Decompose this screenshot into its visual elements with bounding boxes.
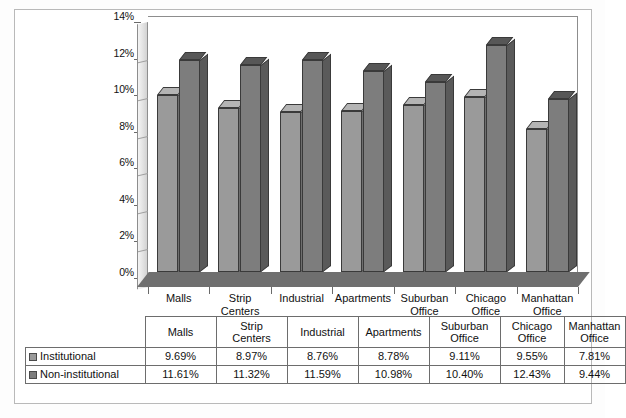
table-column-header: SuburbanOffice	[429, 317, 500, 348]
bar-front-face	[464, 97, 485, 272]
bar-institutional	[526, 129, 547, 272]
table-column-header: Malls	[145, 317, 216, 348]
bar-front-face	[425, 82, 446, 272]
data-table-wrap: MallsStripCentersIndustrialApartmentsSub…	[25, 316, 569, 384]
bar-institutional	[218, 108, 239, 272]
table-cell: 11.32%	[216, 366, 287, 384]
table-column-header: ManhattanOffice	[564, 317, 625, 348]
bar-side-face	[261, 59, 269, 272]
bar-chart: 14%12%10%8%6%4%2%0% MallsStripCentersInd…	[0, 0, 605, 310]
x-axis-label-line: Manhattan	[517, 292, 578, 305]
table-column-header: ChicagoOffice	[500, 317, 564, 348]
x-axis-category-label: Malls	[148, 292, 209, 305]
table-header-row: MallsStripCentersIndustrialApartmentsSub…	[26, 317, 626, 348]
x-axis-label-line: Malls	[148, 292, 209, 305]
table-cell: 8.78%	[358, 348, 429, 366]
bar-group	[148, 16, 209, 272]
bar-front-face	[403, 105, 424, 272]
table-cell: 9.11%	[429, 348, 500, 366]
y-axis-labels: 14%12%10%8%6%4%2%0%	[94, 0, 134, 310]
y-axis-tick-label: 10%	[94, 84, 134, 94]
table-row: Non-institutional11.61%11.32%11.59%10.98…	[26, 366, 626, 384]
table-cell: 12.43%	[500, 366, 564, 384]
table-corner-cell	[26, 317, 146, 348]
table-header-line: Industrial	[291, 326, 355, 339]
bar-group	[394, 16, 455, 272]
table-cell: 9.44%	[564, 366, 625, 384]
y-axis-tick-label: 8%	[94, 121, 134, 131]
legend-label: Non-institutional	[40, 368, 119, 380]
x-axis-category-label: SuburbanOffice	[394, 292, 455, 317]
y-axis-tick-label: 0%	[94, 267, 134, 277]
table-cell: 7.81%	[564, 348, 625, 366]
table-header-line: Office	[504, 332, 561, 345]
table-header-line: Centers	[220, 332, 284, 345]
bar-institutional	[157, 95, 178, 272]
table-row: Institutional9.69%8.97%8.76%8.78%9.11%9.…	[26, 348, 626, 366]
bar-non-institutional	[363, 71, 384, 272]
table-cell: 9.69%	[145, 348, 216, 366]
bar-side-face	[323, 54, 331, 272]
bar-front-face	[218, 108, 239, 272]
x-axis-label-line: Industrial	[271, 292, 332, 305]
x-axis-label-line: Suburban	[394, 292, 455, 305]
bar-side-face	[384, 65, 392, 272]
bar-non-institutional	[302, 60, 323, 272]
bar-side-face	[200, 53, 208, 272]
x-axis-tick-mark	[578, 287, 579, 294]
bar-institutional	[341, 111, 362, 272]
bar-group	[271, 16, 332, 272]
bar-group	[455, 16, 516, 272]
table-cell: 10.40%	[429, 366, 500, 384]
bar-front-face	[302, 60, 323, 272]
legend-row-header: Institutional	[26, 348, 146, 366]
table-cell: 9.55%	[500, 348, 564, 366]
bar-institutional	[464, 97, 485, 272]
bar-non-institutional	[179, 60, 200, 272]
table-column-header: StripCenters	[216, 317, 287, 348]
y-axis-tick-label: 12%	[94, 48, 134, 58]
bar-side-face	[446, 76, 454, 272]
bar-front-face	[157, 95, 178, 272]
bar-front-face	[548, 99, 569, 272]
bar-series-container	[148, 16, 578, 272]
table-header-line: Office	[568, 332, 622, 345]
y-axis-tick-label: 4%	[94, 194, 134, 204]
bar-front-face	[341, 111, 362, 272]
bar-side-face	[507, 38, 515, 272]
table-header-line: Manhattan	[568, 320, 622, 333]
bar-front-face	[363, 71, 384, 272]
table-header-line: Office	[433, 332, 497, 345]
table-column-header: Apartments	[358, 317, 429, 348]
data-table: MallsStripCentersIndustrialApartmentsSub…	[25, 316, 626, 384]
table-cell: 8.76%	[287, 348, 358, 366]
bar-group	[517, 16, 578, 272]
table-cell: 11.59%	[287, 366, 358, 384]
bar-group	[209, 16, 270, 272]
table-cell: 10.98%	[358, 366, 429, 384]
bar-non-institutional	[548, 99, 569, 272]
x-axis: MallsStripCentersIndustrialApartmentsSub…	[137, 287, 585, 310]
legend-row-header: Non-institutional	[26, 366, 146, 384]
x-axis-label-line: Chicago	[455, 292, 516, 305]
table-header-line: Apartments	[362, 326, 426, 339]
bar-front-face	[486, 45, 507, 272]
bar-front-face	[526, 129, 547, 272]
bar-group	[332, 16, 393, 272]
chart-left-wall	[137, 22, 148, 289]
x-axis-category-label: ManhattanOffice	[517, 292, 578, 317]
bar-side-face	[569, 93, 577, 272]
bar-front-face	[179, 60, 200, 272]
table-header-line: Strip	[220, 320, 284, 333]
table-cell: 11.61%	[145, 366, 216, 384]
y-axis-tick-label: 6%	[94, 157, 134, 167]
bar-institutional	[280, 112, 301, 272]
chart-floor-surface	[137, 272, 590, 287]
bar-non-institutional	[425, 82, 446, 272]
x-axis-label-line: Apartments	[332, 292, 393, 305]
y-axis-tick-label: 2%	[94, 230, 134, 240]
table-header-line: Malls	[149, 326, 213, 339]
table-header-line: Suburban	[433, 320, 497, 333]
y-axis-tick-label: 14%	[94, 11, 134, 21]
